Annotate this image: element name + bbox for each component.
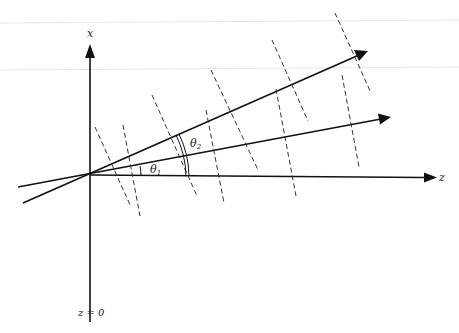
background-guide-lines [0,20,459,70]
beam-1-arrowhead-icon [378,114,391,125]
diagram-canvas: x z z = 0 θ1 θ2 [0,0,459,333]
z-axis-arrowhead-icon [424,173,437,183]
x-axis-arrowhead-icon [85,44,95,58]
theta1-subscript: 1 [157,169,161,177]
theta1-label: θ1 [150,163,161,177]
x-axis [85,44,95,322]
theta2-subscript: 2 [196,143,202,151]
theta2-label: θ2 [190,137,202,151]
wavefronts [95,13,371,216]
z-axis-label: z [438,171,445,184]
beam-2 [23,50,368,203]
z-axis [90,173,437,183]
x-axis-label: x [87,27,94,40]
origin-label: z = 0 [77,307,105,318]
